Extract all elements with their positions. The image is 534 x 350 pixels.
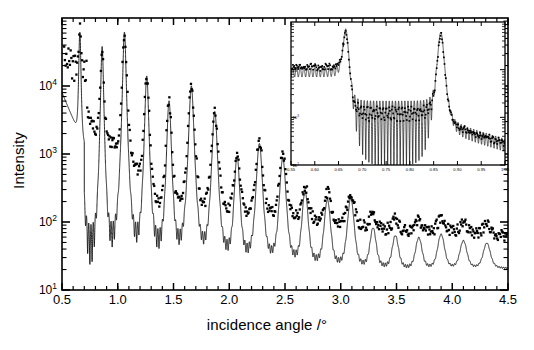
inset-y-tick-label: 103 xyxy=(293,114,299,120)
x-tick-label: 0.5 xyxy=(53,292,71,307)
xrr-reflectivity-figure: Intensity incidence angle /° 10110210310… xyxy=(0,0,534,350)
inset-x-tick-label: 0.85 xyxy=(430,167,438,172)
y-tick-label: 104 xyxy=(39,79,57,93)
inset-x-tick-label: 0.75 xyxy=(382,167,390,172)
inset-x-tick-label: 1.00 xyxy=(501,167,509,172)
x-tick-label: 2.5 xyxy=(276,292,294,307)
x-tick-label: 2.0 xyxy=(220,292,238,307)
inset-plot-frame xyxy=(291,22,505,165)
inset-x-tick-label: 0.80 xyxy=(406,167,414,172)
inset-x-tick-label: 0.60 xyxy=(311,167,319,172)
x-tick-label: 3.5 xyxy=(387,292,405,307)
y-tick-label: 103 xyxy=(39,147,57,161)
y-tick-label: 102 xyxy=(39,215,57,229)
inset-y-tick-label: 104 xyxy=(293,66,299,72)
inset-x-tick-label: 0.90 xyxy=(453,167,461,172)
inset-y-tick-label: 102 xyxy=(293,162,299,168)
inset-x-tick-label: 0.65 xyxy=(334,167,342,172)
inset-x-tick-label: 0.95 xyxy=(477,167,485,172)
x-tick-label: 1.0 xyxy=(109,292,127,307)
x-tick-label: 4.0 xyxy=(443,292,461,307)
inset-x-tick-label: 0.70 xyxy=(358,167,366,172)
x-tick-label: 3.0 xyxy=(332,292,350,307)
x-tick-label: 4.5 xyxy=(499,292,517,307)
x-tick-label: 1.5 xyxy=(164,292,182,307)
